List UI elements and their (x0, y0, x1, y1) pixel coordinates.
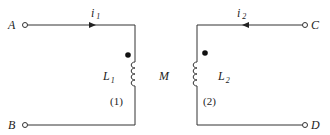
terminal-b (23, 123, 28, 128)
terminal-a (23, 23, 28, 28)
label-l2: L2 (217, 69, 230, 85)
top-wire-right (197, 25, 303, 62)
inductor-l2-icon (193, 62, 197, 86)
label-a: A (7, 18, 16, 32)
label-i1: i1 (91, 6, 100, 21)
label-d: D (310, 118, 320, 132)
label-port-1: (1) (110, 95, 123, 108)
label-i2: i2 (237, 6, 246, 21)
dot-l2-icon (202, 50, 208, 56)
dot-l1-icon (125, 52, 131, 58)
coupled-inductor-diagram: A B C D i1 i2 L1 L2 M (1) (2) (0, 0, 330, 135)
terminal-d (303, 123, 308, 128)
left-circuit (23, 22, 136, 128)
i2-arrow-icon (242, 22, 249, 28)
label-c: C (311, 18, 320, 32)
label-port-2: (2) (203, 95, 216, 108)
label-l1: L1 (102, 69, 115, 85)
inductor-l1-icon (131, 62, 135, 86)
top-wire-left (28, 25, 136, 62)
terminal-c (303, 23, 308, 28)
i1-arrow-icon (89, 22, 96, 28)
label-b: B (8, 118, 16, 132)
label-mutual-m: M (158, 69, 170, 83)
right-circuit (193, 22, 307, 128)
